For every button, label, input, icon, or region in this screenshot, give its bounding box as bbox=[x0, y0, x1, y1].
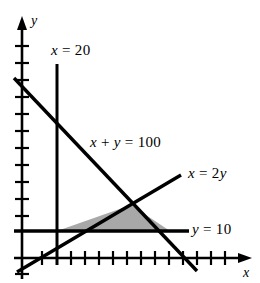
y-axis bbox=[15, 16, 29, 279]
label-x-equals-2y: x = 2y bbox=[188, 166, 227, 181]
graph-figure: y x x = 20 x + y = 100 x = 2y y = 10 bbox=[0, 0, 260, 283]
line-x-plus-y-equals-100 bbox=[14, 78, 197, 271]
label-x-equals-20: x = 20 bbox=[51, 43, 90, 58]
x-axis-label: x bbox=[243, 266, 249, 280]
label-x-plus-y-equals-100: x + y = 100 bbox=[90, 135, 161, 150]
y-axis-label: y bbox=[31, 14, 37, 28]
label-y-equals-10: y = 10 bbox=[192, 222, 231, 237]
